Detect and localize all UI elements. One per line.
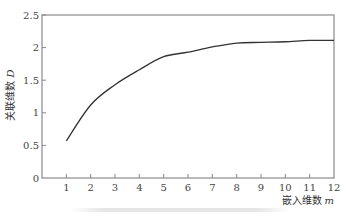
x-tick-label: 7 xyxy=(209,182,215,193)
y-tick-label: 0.5 xyxy=(23,140,39,151)
y-tick-label: 0 xyxy=(33,173,39,184)
x-tick-label: 9 xyxy=(258,182,264,193)
x-axis-title: 嵌入维数m xyxy=(282,194,334,206)
y-tick-label: 2 xyxy=(33,42,39,53)
y-tick-label: 1.5 xyxy=(23,75,39,86)
x-tick-label: 3 xyxy=(112,182,118,193)
x-tick-label: 1 xyxy=(63,182,69,193)
plot-frame xyxy=(42,15,334,178)
x-tick-label: 2 xyxy=(87,182,93,193)
correlation-dimension-chart: 00.511.522.5 123456789101112 关联维数D 嵌入维数m xyxy=(0,0,347,217)
x-tick-label: 8 xyxy=(233,182,239,193)
x-axis-ticks: 123456789101112 xyxy=(63,174,340,193)
x-tick-label: 5 xyxy=(160,182,166,193)
x-tick-label: 4 xyxy=(136,182,142,193)
x-tick-label: 12 xyxy=(328,182,341,193)
x-tick-label: 10 xyxy=(279,182,292,193)
x-tick-label: 11 xyxy=(303,182,316,193)
y-tick-label: 2.5 xyxy=(23,10,39,21)
data-series-line xyxy=(66,40,334,141)
y-axis-title: 关联维数D xyxy=(4,69,16,120)
x-tick-label: 6 xyxy=(185,182,191,193)
y-tick-label: 1 xyxy=(33,107,39,118)
figure-caption-faded xyxy=(70,208,290,212)
